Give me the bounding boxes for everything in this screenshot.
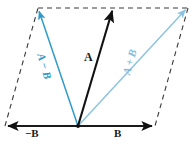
origin-point [76, 124, 80, 128]
vector-a [78, 11, 112, 126]
vector-parallelogram-figure: A −B B A − B A + B [0, 0, 192, 146]
label-vector-b-negative: −B [25, 128, 39, 139]
construction-line-left [5, 8, 38, 126]
label-vector-b-positive: B [114, 128, 121, 139]
diagram-canvas [0, 0, 192, 146]
label-vector-a: A [84, 51, 93, 63]
